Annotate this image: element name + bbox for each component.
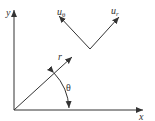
u-r-label: ur <box>111 5 119 18</box>
polar-coordinates-diagram: y x r θ uθ ur <box>0 0 155 121</box>
u-r-vector <box>90 17 119 49</box>
y-axis-label: y <box>5 7 11 18</box>
theta-label: θ <box>66 82 71 93</box>
u-theta-label: uθ <box>57 6 66 19</box>
x-axis-label: x <box>138 111 144 121</box>
diagram-svg: y x r θ uθ ur <box>0 0 155 121</box>
u-theta-vector <box>59 16 90 49</box>
r-label: r <box>58 51 62 62</box>
r-vector <box>14 57 72 110</box>
